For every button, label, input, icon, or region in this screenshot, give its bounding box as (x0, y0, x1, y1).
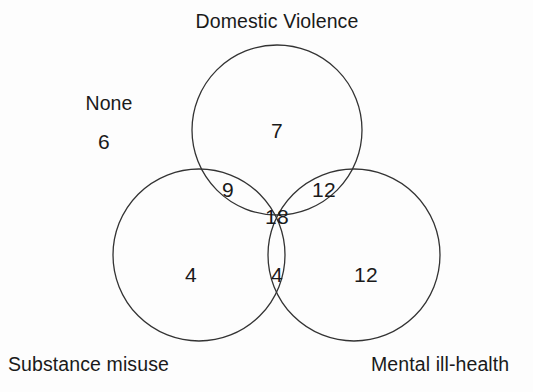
region-count-left-only: 4 (185, 264, 197, 285)
outside-count-none: 6 (98, 131, 110, 152)
region-count-top-left: 9 (222, 179, 234, 200)
region-count-top-right: 12 (312, 179, 336, 200)
circle-mental-ill-health (268, 169, 440, 341)
set-label-substance-misuse: Substance misuse (8, 355, 169, 375)
region-count-right-only: 12 (354, 264, 378, 285)
region-count-left-right: 4 (271, 264, 283, 285)
circle-substance-misuse (113, 169, 285, 341)
region-count-center-all: 18 (265, 206, 289, 227)
set-label-domestic-violence: Domestic Violence (196, 12, 359, 32)
outside-label-none: None (85, 94, 132, 114)
region-count-top-only: 7 (271, 120, 283, 141)
set-label-mental-ill-health: Mental ill-health (371, 355, 509, 375)
venn-circles (0, 0, 533, 392)
venn-diagram-figure: Domestic Violence Substance misuse Menta… (0, 0, 533, 392)
